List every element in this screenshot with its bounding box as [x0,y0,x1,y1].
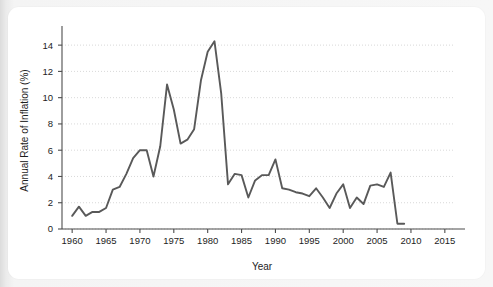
x-tick-label: 1985 [231,235,252,246]
y-tick-label: 6 [48,145,53,156]
x-axis-title: Year [252,261,273,272]
x-tick-label: 2000 [333,235,354,246]
x-tick-label: 2015 [434,235,455,246]
y-tick-label: 4 [48,171,53,182]
x-tick-label: 1975 [163,235,184,246]
y-tick-labels: 02468101214 [42,40,53,235]
y-tick-label: 14 [42,40,53,51]
x-axis [62,229,465,233]
y-tick-label: 10 [42,92,53,103]
y-tick-label: 2 [48,197,53,208]
x-tick-label: 1995 [299,235,320,246]
plot-area-wrapper: 02468101214 1960196519701975198019851990… [0,0,493,287]
x-tick-label: 1965 [95,235,116,246]
x-tick-label: 1980 [197,235,218,246]
x-tick-labels: 1960196519701975198019851990199520002005… [62,235,456,246]
y-axis-title: Annual Rate of Inflation (%) [19,69,30,191]
y-axis [58,26,62,229]
inflation-line-chart: 02468101214 1960196519701975198019851990… [0,0,493,287]
x-tick-label: 2005 [367,235,388,246]
gridlines [62,45,455,229]
data-series-group [72,41,404,224]
data-line [72,41,404,224]
y-tick-label: 0 [48,223,53,234]
x-tick-label: 2010 [400,235,421,246]
y-tick-label: 8 [48,118,53,129]
x-tick-label: 1960 [62,235,83,246]
x-tick-label: 1970 [129,235,150,246]
x-tick-label: 1990 [265,235,286,246]
figure-root: 02468101214 1960196519701975198019851990… [0,0,493,287]
y-tick-label: 12 [42,66,53,77]
